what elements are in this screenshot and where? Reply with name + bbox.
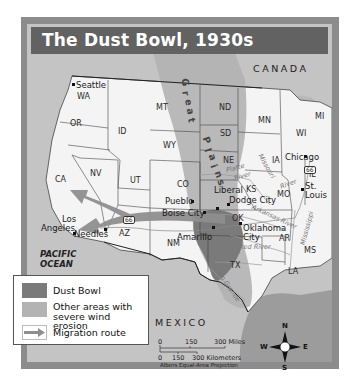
state-label-sd: SD <box>220 130 231 138</box>
map-title-bar: The Dust Bowl, 1930s <box>31 27 328 54</box>
compass-n: N <box>282 322 288 330</box>
state-label-mi: MI <box>315 113 324 121</box>
state-label-mt: MT <box>156 104 168 112</box>
legend-item-migration: Migration route <box>22 325 126 340</box>
state-label-mo: MO <box>277 191 290 199</box>
arrow-right-icon <box>22 325 47 340</box>
compass-e: E <box>303 343 308 351</box>
city-label-amarillo: Amarillo <box>177 233 212 242</box>
state-label-wy: WY <box>163 142 176 150</box>
scale-miles-150: 150 <box>185 338 197 346</box>
country-label-mexico: MEXICO <box>155 318 208 328</box>
state-label-ks: KS <box>246 186 256 194</box>
city-label-st-louis-2: Louis <box>305 191 327 200</box>
dust-bowl-swatch <box>22 283 47 298</box>
city-label-pueblo: Pueblo <box>165 197 194 206</box>
scale-km-150: 150 <box>172 354 184 362</box>
state-label-az: AZ <box>119 230 130 238</box>
wind-erosion-swatch <box>22 302 47 317</box>
state-label-id: ID <box>118 128 127 136</box>
city-label-boise-city: Boise City <box>162 209 204 218</box>
scale-km-300: 300 Kilometers <box>192 354 241 362</box>
ocean-label-line1: PACIFIC <box>40 250 76 259</box>
city-label-needles: Needles <box>74 230 108 239</box>
compass-s: S <box>282 364 287 372</box>
route-66-shield-west: 66 <box>123 216 135 224</box>
map-legend: Dust Bowl Other areas with severe wind e… <box>13 275 149 345</box>
state-label-wa: WA <box>77 93 90 101</box>
state-label-ut: UT <box>130 177 141 185</box>
state-label-co: CO <box>177 181 189 189</box>
state-label-nd: ND <box>219 104 231 112</box>
legend-label: Dust Bowl <box>53 286 101 296</box>
state-label-la: LA <box>288 268 298 276</box>
state-label-wi: WI <box>296 130 306 138</box>
scale-km-0: 0 <box>158 354 162 362</box>
city-label-chicago: Chicago <box>285 153 319 162</box>
scale-miles-300: 300 Miles <box>214 338 245 346</box>
city-label-los-angeles-2: Angeles <box>41 224 75 233</box>
scale-miles-0: 0 <box>158 338 162 346</box>
state-label-ca: CA <box>55 176 66 184</box>
legend-label: Migration route <box>53 328 126 338</box>
route-66-shield-east: 66 <box>304 166 316 174</box>
state-label-tx: TX <box>230 262 240 270</box>
state-label-nv: NV <box>90 170 101 178</box>
ocean-label-line2: OCEAN <box>40 260 73 269</box>
projection-label: Albers Equal-Area Projection <box>160 362 238 368</box>
city-label-liberal: Liberal <box>214 186 243 195</box>
state-label-ia: IA <box>272 157 280 165</box>
state-label-ar: AR <box>279 235 290 243</box>
compass-w: W <box>260 343 268 351</box>
country-label-canada: CANADA <box>253 64 308 74</box>
map-title: The Dust Bowl, 1930s <box>42 30 254 50</box>
state-label-ms: MS <box>304 247 316 255</box>
river-label-red: Red River <box>239 244 271 251</box>
great-plains-letter: G <box>180 78 191 88</box>
state-label-ok: OK <box>232 215 244 223</box>
state-label-or: OR <box>70 120 82 128</box>
state-label-mn: MN <box>258 117 271 125</box>
city-label-seattle: Seattle <box>76 81 106 90</box>
legend-item-dust-bowl: Dust Bowl <box>22 283 101 298</box>
city-label-oklahoma-city-2: City <box>243 233 260 242</box>
migration-route-swatch <box>22 325 47 340</box>
